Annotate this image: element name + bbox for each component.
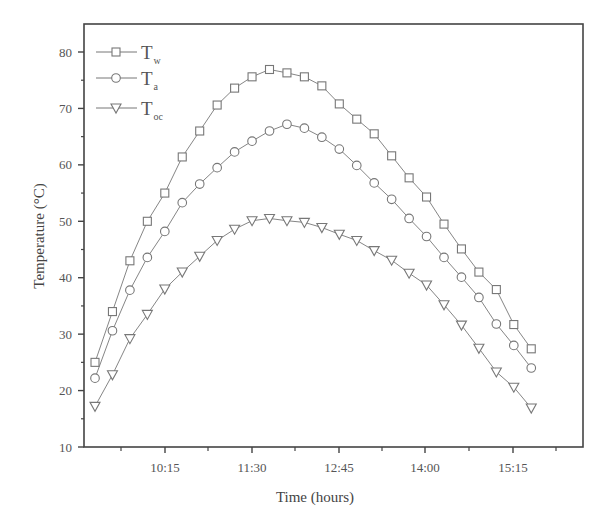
square-marker-icon — [457, 245, 465, 253]
square-marker-icon — [318, 82, 326, 90]
square-marker-icon — [112, 48, 120, 56]
circle-marker-icon — [230, 148, 239, 157]
triangle-down-marker-icon — [387, 256, 397, 265]
circle-marker-icon — [422, 232, 431, 241]
square-marker-icon — [353, 115, 361, 123]
legend: TwTaToc — [96, 42, 164, 122]
y-tick-label: 40 — [59, 270, 72, 285]
x-tick-label: 12:45 — [324, 460, 354, 475]
triangle-down-marker-icon — [456, 321, 466, 330]
square-marker-icon — [143, 217, 151, 225]
y-axis: 1020304050607080 — [59, 45, 84, 455]
circle-marker-icon — [248, 137, 257, 146]
circle-marker-icon — [440, 253, 449, 262]
circle-marker-icon — [112, 74, 121, 83]
triangle-down-marker-icon — [247, 217, 257, 226]
square-marker-icon — [283, 69, 291, 77]
x-tick-label: 14:00 — [410, 460, 440, 475]
circle-marker-icon — [387, 195, 396, 204]
triangle-down-marker-icon — [369, 247, 379, 256]
triangle-down-marker-icon — [125, 335, 135, 344]
triangle-down-marker-icon — [107, 371, 117, 380]
y-tick-label: 70 — [59, 101, 72, 116]
circle-marker-icon — [213, 163, 222, 172]
triangle-down-marker-icon — [404, 269, 414, 278]
square-marker-icon — [475, 268, 483, 276]
square-marker-icon — [248, 73, 256, 81]
circle-marker-icon — [527, 364, 536, 373]
square-marker-icon — [440, 220, 448, 228]
triangle-down-marker-icon — [142, 310, 152, 319]
circle-marker-icon — [126, 286, 135, 295]
legend-item-t-a: Ta — [96, 68, 159, 92]
circle-marker-icon — [143, 253, 152, 262]
square-marker-icon — [492, 286, 500, 294]
triangle-down-marker-icon — [160, 285, 170, 294]
square-marker-icon — [266, 65, 274, 73]
triangle-down-marker-icon — [334, 230, 344, 239]
square-marker-icon — [91, 358, 99, 366]
circle-marker-icon — [283, 120, 292, 129]
x-axis-title: Time (hours) — [276, 489, 354, 506]
x-tick-label: 15:15 — [498, 460, 528, 475]
y-tick-label: 30 — [59, 327, 72, 342]
plot-border — [84, 24, 583, 447]
circle-marker-icon — [318, 133, 327, 142]
legend-label: Ta — [141, 68, 159, 92]
circle-marker-icon — [195, 180, 204, 189]
square-marker-icon — [196, 127, 204, 135]
x-axis: 10:1511:3012:4514:0015:15 — [121, 447, 556, 475]
circle-marker-icon — [510, 341, 519, 350]
square-marker-icon — [300, 73, 308, 81]
square-marker-icon — [161, 189, 169, 197]
y-tick-label: 50 — [59, 214, 72, 229]
triangle-down-marker-icon — [317, 223, 327, 232]
triangle-down-marker-icon — [526, 404, 536, 413]
circle-marker-icon — [492, 320, 501, 329]
circle-marker-icon — [335, 145, 344, 154]
square-marker-icon — [388, 152, 396, 160]
circle-marker-icon — [352, 161, 361, 170]
x-tick-label: 10:15 — [150, 460, 180, 475]
circle-marker-icon — [370, 179, 379, 188]
x-tick-label: 11:30 — [237, 460, 266, 475]
legend-label: Toc — [141, 98, 164, 122]
y-axis-title: Temperature (°C) — [31, 183, 48, 288]
square-marker-icon — [231, 84, 239, 92]
plot-frame — [84, 24, 583, 447]
square-marker-icon — [423, 193, 431, 201]
series-t-oc — [90, 214, 536, 413]
circle-marker-icon — [161, 227, 170, 236]
circle-marker-icon — [91, 374, 100, 383]
square-marker-icon — [126, 257, 134, 265]
temperature-line-chart: 1020304050607080 10:1511:3012:4514:0015:… — [0, 0, 611, 523]
y-tick-label: 80 — [59, 45, 72, 60]
square-marker-icon — [370, 130, 378, 138]
square-marker-icon — [405, 174, 413, 182]
legend-item-t-oc: Toc — [96, 98, 164, 122]
legend-label: Tw — [141, 42, 162, 66]
y-tick-label: 10 — [59, 440, 72, 455]
square-marker-icon — [213, 101, 221, 109]
triangle-down-marker-icon — [90, 402, 100, 411]
triangle-down-marker-icon — [230, 225, 240, 234]
circle-marker-icon — [300, 124, 309, 133]
circle-marker-icon — [108, 326, 117, 335]
legend-item-t-w: Tw — [96, 42, 162, 66]
circle-marker-icon — [457, 273, 466, 282]
y-tick-label: 20 — [59, 383, 72, 398]
square-marker-icon — [527, 345, 535, 353]
circle-marker-icon — [178, 198, 187, 207]
square-marker-icon — [335, 100, 343, 108]
square-marker-icon — [510, 321, 518, 329]
square-marker-icon — [108, 308, 116, 316]
circle-marker-icon — [265, 127, 274, 136]
triangle-down-marker-icon — [299, 218, 309, 227]
circle-marker-icon — [475, 293, 484, 302]
triangle-down-marker-icon — [352, 236, 362, 245]
circle-marker-icon — [405, 214, 414, 223]
series-t-a — [91, 120, 536, 383]
square-marker-icon — [178, 153, 186, 161]
y-tick-label: 60 — [59, 157, 72, 172]
triangle-down-marker-icon — [474, 344, 484, 353]
